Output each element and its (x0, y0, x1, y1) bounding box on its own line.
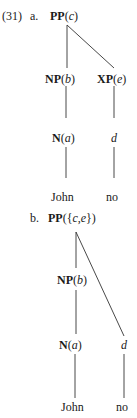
tree-a-xp-node: XP(e) (97, 72, 126, 86)
tree-a-leaf-john: John (51, 190, 74, 204)
tree-b-root-node: PP({c,e}) (48, 211, 96, 225)
tree-b-d-node: d (121, 338, 127, 352)
tree-b-n-node: N(a) (59, 338, 82, 352)
tree-a-np-node: NP(b) (45, 72, 75, 86)
tree-a-leaf-no: no (106, 190, 118, 204)
tree-b-leaf-no: no (116, 400, 128, 414)
subexample-b-marker: b. (30, 211, 39, 225)
tree-b-np-node: NP(b) (57, 273, 87, 287)
tree-b-leaf-john: John (61, 400, 84, 414)
tree-a-n-node: N(a) (52, 131, 75, 145)
tree-a-root-node: PP(c) (50, 9, 78, 23)
tree-edges (0, 0, 137, 418)
subexample-a-marker: a. (30, 9, 38, 23)
example-number: (31) (2, 9, 22, 23)
tree-a-d-node: d (111, 131, 117, 145)
